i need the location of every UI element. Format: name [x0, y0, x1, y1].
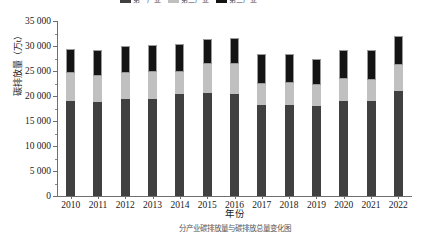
- bar-stack[interactable]: [93, 21, 102, 196]
- bar-segment[interactable]: [93, 76, 102, 102]
- bar-segment[interactable]: [175, 44, 184, 72]
- bar-segment[interactable]: [312, 106, 321, 196]
- x-tick: [398, 196, 399, 199]
- bar-segment[interactable]: [394, 36, 403, 65]
- y-tick-label: 15 000: [25, 116, 51, 126]
- bar-segment[interactable]: [148, 72, 157, 99]
- y-tick-label: 10 000: [25, 141, 51, 151]
- legend-swatch-series-3: [216, 0, 227, 3]
- figure-caption: 分产业碳排放量与碳排放总量变化图: [57, 224, 412, 232]
- y-tick-minor: [55, 184, 57, 185]
- bar-segment[interactable]: [312, 85, 321, 106]
- bar-segment[interactable]: [230, 38, 239, 64]
- bar-segment[interactable]: [66, 73, 75, 102]
- y-tick-major: [53, 96, 57, 97]
- bar-segment[interactable]: [285, 105, 294, 197]
- bar-stack[interactable]: [285, 21, 294, 196]
- bar-segment[interactable]: [367, 101, 376, 196]
- bar-stack[interactable]: [230, 21, 239, 196]
- bar-segment[interactable]: [93, 102, 102, 197]
- y-tick-minor: [55, 34, 57, 35]
- bar-segment[interactable]: [257, 84, 266, 106]
- bar-stack[interactable]: [339, 21, 348, 196]
- y-tick-major: [53, 196, 57, 197]
- legend-label-series-1: 第一产业: [133, 0, 161, 5]
- bar-segment[interactable]: [394, 91, 403, 196]
- y-tick-major: [53, 21, 57, 22]
- chart-legend: 第一产业 第二产业 第三产业: [120, 0, 257, 5]
- bar-segment[interactable]: [121, 99, 130, 196]
- y-tick-major: [53, 121, 57, 122]
- bar-segment[interactable]: [203, 93, 212, 196]
- bar-stack[interactable]: [66, 21, 75, 196]
- x-tick: [71, 196, 72, 199]
- y-axis-line: [57, 21, 58, 196]
- bar-segment[interactable]: [203, 39, 212, 65]
- x-tick: [235, 196, 236, 199]
- bar-stack[interactable]: [257, 21, 266, 196]
- bar-stack[interactable]: [312, 21, 321, 196]
- legend-item: 第一产业: [120, 0, 161, 5]
- bar-segment[interactable]: [339, 101, 348, 196]
- y-tick-major: [53, 171, 57, 172]
- bar-segment[interactable]: [203, 64, 212, 93]
- x-tick: [316, 196, 317, 199]
- bar-stack[interactable]: [203, 21, 212, 196]
- bar-segment[interactable]: [148, 99, 157, 197]
- legend-label-series-3: 第三产业: [229, 0, 257, 5]
- x-tick: [180, 196, 181, 199]
- y-tick-label: 35 000: [25, 16, 51, 26]
- bar-segment[interactable]: [230, 94, 239, 196]
- bar-stack[interactable]: [121, 21, 130, 196]
- legend-item: 第二产业: [168, 0, 209, 5]
- legend-swatch-series-1: [120, 0, 131, 3]
- bar-stack[interactable]: [148, 21, 157, 196]
- bar-stack[interactable]: [175, 21, 184, 196]
- y-tick-minor: [55, 59, 57, 60]
- y-tick-major: [53, 146, 57, 147]
- bar-segment[interactable]: [93, 50, 102, 76]
- y-tick-major: [53, 71, 57, 72]
- y-tick-label: 0: [46, 191, 51, 201]
- bar-segment[interactable]: [148, 45, 157, 72]
- bar-segment[interactable]: [285, 83, 294, 105]
- plot-area: 05 00010 00015 00020 00025 00030 00035 0…: [57, 21, 412, 196]
- x-tick: [289, 196, 290, 199]
- bar-segment[interactable]: [175, 94, 184, 196]
- bar-segment[interactable]: [339, 79, 348, 101]
- bar-segment[interactable]: [121, 73, 130, 99]
- y-tick-minor: [55, 84, 57, 85]
- bar-stack[interactable]: [394, 21, 403, 196]
- bar-segment[interactable]: [285, 54, 294, 83]
- y-tick-minor: [55, 159, 57, 160]
- legend-item: 第三产业: [216, 0, 257, 5]
- legend-label-series-2: 第二产业: [181, 0, 209, 5]
- bar-stack[interactable]: [367, 21, 376, 196]
- x-tick: [207, 196, 208, 199]
- bar-segment[interactable]: [257, 105, 266, 196]
- bar-segment[interactable]: [367, 80, 376, 102]
- chart-container: 第一产业 第二产业 第三产业 碳排放量（万t） 05 00010 00015 0…: [0, 0, 422, 232]
- bar-segment[interactable]: [367, 50, 376, 80]
- bar-segment[interactable]: [66, 101, 75, 196]
- x-tick: [125, 196, 126, 199]
- y-tick-label: 5 000: [30, 166, 51, 176]
- y-tick-label: 25 000: [25, 66, 51, 76]
- x-axis-title: 年份: [57, 209, 412, 220]
- x-tick: [262, 196, 263, 199]
- y-tick-minor: [55, 109, 57, 110]
- bar-segment[interactable]: [339, 50, 348, 79]
- x-tick: [371, 196, 372, 199]
- y-axis-title: 碳排放量（万t）: [13, 4, 24, 124]
- y-tick-label: 30 000: [25, 41, 51, 51]
- bar-segment[interactable]: [394, 65, 403, 91]
- bar-segment[interactable]: [66, 49, 75, 73]
- legend-swatch-series-2: [168, 0, 179, 3]
- bar-segment[interactable]: [312, 59, 321, 86]
- bar-segment[interactable]: [230, 64, 239, 94]
- bar-segment[interactable]: [175, 72, 184, 95]
- x-tick: [344, 196, 345, 199]
- y-tick-minor: [55, 134, 57, 135]
- bar-segment[interactable]: [121, 46, 130, 73]
- bar-segment[interactable]: [257, 54, 266, 84]
